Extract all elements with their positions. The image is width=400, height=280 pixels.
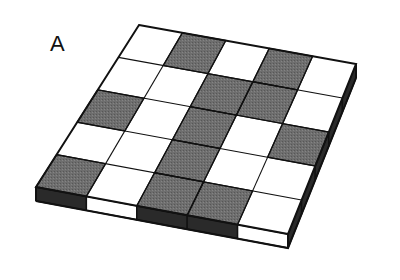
panel-label-a: A [50, 33, 65, 55]
figure-panel: A [0, 0, 400, 280]
